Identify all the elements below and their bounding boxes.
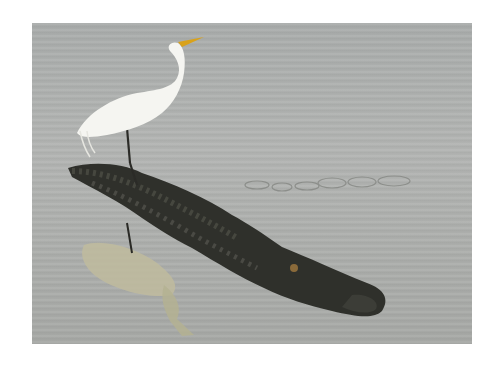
scene	[32, 23, 472, 344]
egret-beak	[178, 37, 204, 47]
alligator	[68, 164, 386, 316]
alligator-eye	[290, 264, 298, 272]
egret	[77, 37, 204, 185]
photo	[32, 23, 472, 344]
bubble-trail	[245, 176, 410, 191]
